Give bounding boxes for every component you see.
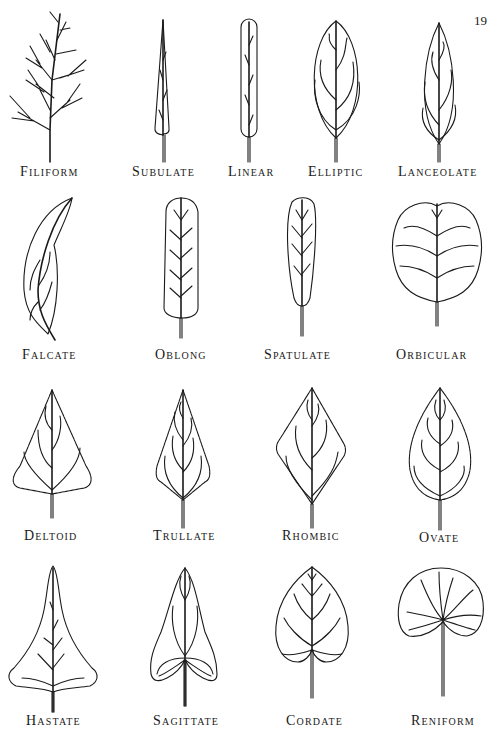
leaf-oblong: Oblong [150,190,230,370]
leaf-subulate: Subulate [140,0,210,190]
label-ovate: Ovate [419,530,459,546]
label-rhombic: Rhombic [282,528,340,544]
leaf-spatulate: Spatulate [270,190,350,370]
label-filiform: Filiform [20,164,79,180]
orbicular-leaf-icon [390,190,495,370]
subulate-leaf-icon [140,0,210,190]
ovate-leaf-icon [400,370,495,550]
leaf-elliptic: Elliptic [305,0,385,190]
label-linear: Linear [228,164,274,180]
leaf-rhombic: Rhombic [270,370,360,550]
label-hastate: Hastate [26,713,81,729]
leaf-reniform: Reniform [395,550,495,732]
sagittate-leaf-icon [145,550,235,732]
leaf-sagittate: Sagittate [145,550,235,732]
label-spatulate: Spatulate [264,347,331,363]
reniform-leaf-icon [395,550,495,732]
label-lanceolate: Lanceolate [398,164,477,180]
leaf-cordate: Cordate [270,550,360,732]
leaf-falcate: Falcate [0,190,110,370]
label-orbicular: Orbicular [396,347,467,363]
oblong-leaf-icon [150,190,230,370]
leaf-ovate: Ovate [400,370,495,550]
label-oblong: Oblong [155,347,207,363]
label-sagittate: Sagittate [153,713,219,729]
rhombic-leaf-icon [270,370,360,550]
spatulate-leaf-icon [270,190,350,370]
hastate-leaf-icon [0,550,110,732]
label-reniform: Reniform [411,713,475,729]
label-falcate: Falcate [22,347,77,363]
deltoid-leaf-icon [0,370,110,550]
label-trullate: Trullate [153,528,216,544]
cordate-leaf-icon [270,550,360,732]
trullate-leaf-icon [145,370,225,550]
label-subulate: Subulate [132,164,195,180]
label-cordate: Cordate [286,713,343,729]
leaf-linear: Linear [225,0,285,190]
linear-leaf-icon [225,0,285,190]
leaf-filiform: Filiform [0,0,100,190]
leaf-orbicular: Orbicular [390,190,495,370]
label-elliptic: Elliptic [308,164,363,180]
leaf-trullate: Trullate [145,370,225,550]
leaf-deltoid: Deltoid [0,370,110,550]
filiform-leaf-icon [0,0,100,190]
leaf-hastate: Hastate [0,550,110,732]
falcate-leaf-icon [0,190,110,370]
label-deltoid: Deltoid [24,528,78,544]
elliptic-leaf-icon [305,0,385,190]
lanceolate-leaf-icon [395,0,495,190]
leaf-lanceolate: Lanceolate [395,0,495,190]
